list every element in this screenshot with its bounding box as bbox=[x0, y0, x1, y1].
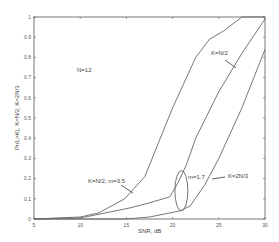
series-line bbox=[34, 19, 265, 219]
y-tick-label: 0 bbox=[28, 216, 31, 222]
curves bbox=[34, 17, 265, 219]
y-tick-label: 0.9 bbox=[24, 34, 31, 40]
y-tick-label: 0.4 bbox=[24, 135, 31, 141]
y-tick-label: 0.7 bbox=[24, 74, 31, 80]
x-tick-label: 15 bbox=[124, 222, 130, 228]
y-axis-label: Pr(L>K), K=N/2, K=2N/3 bbox=[14, 85, 20, 150]
x-tick-label: 10 bbox=[77, 222, 83, 228]
x-tick-label: 30 bbox=[262, 222, 268, 228]
x-axis-ticks: 51015202530 bbox=[33, 17, 268, 228]
x-tick-label: 20 bbox=[170, 222, 176, 228]
plot-frame bbox=[34, 17, 265, 219]
y-tick-label: 0.6 bbox=[24, 95, 31, 101]
y-tick-label: 0.8 bbox=[24, 54, 31, 60]
x-tick-label: 25 bbox=[216, 222, 222, 228]
annotation-m17: m=1.7 bbox=[188, 174, 206, 180]
x-axis-label: SNR, dB bbox=[138, 228, 161, 234]
y-tick-label: 0.3 bbox=[24, 155, 31, 161]
annotation-kn2-m35: K=N/2; m=3.5 bbox=[88, 178, 126, 184]
annotation-k2n3: K=2N/3 bbox=[228, 173, 249, 179]
y-tick-label: 0.5 bbox=[24, 115, 31, 121]
y-axis-ticks: 00.10.20.30.40.50.60.70.80.91 bbox=[24, 14, 265, 222]
annotation-n12: N=12 bbox=[77, 67, 92, 73]
annotation-kn2: K=N/2 bbox=[211, 50, 229, 56]
y-tick-label: 1 bbox=[28, 14, 31, 20]
series-line bbox=[34, 49, 265, 219]
leader-line-kn2 bbox=[225, 60, 236, 68]
y-tick-label: 0.1 bbox=[24, 196, 31, 202]
y-tick-label: 0.2 bbox=[24, 175, 31, 181]
series-line bbox=[34, 17, 265, 219]
chart: 51015202530 00.10.20.30.40.50.60.70.80.9… bbox=[0, 0, 279, 242]
leader-line-k2n3 bbox=[212, 177, 225, 179]
leader-line-kn2-m35 bbox=[121, 185, 133, 193]
x-tick-label: 5 bbox=[33, 222, 36, 228]
